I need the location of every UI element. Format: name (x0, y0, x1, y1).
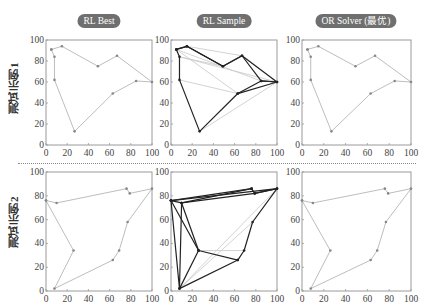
x-tick-label: 100 (404, 294, 419, 304)
city-node (50, 48, 53, 51)
x-tick-label: 40 (209, 294, 219, 304)
y-tick-label: 100 (286, 167, 301, 177)
city-node (329, 249, 332, 252)
y-tick-label: 40 (160, 98, 170, 108)
route-line (307, 46, 411, 131)
x-tick-label: 60 (105, 294, 115, 304)
city-node (309, 56, 312, 59)
x-tick-label: 40 (209, 148, 219, 158)
city-node (312, 202, 315, 205)
city-node (236, 259, 239, 262)
city-node (330, 130, 333, 133)
city-node (354, 65, 357, 68)
x-tick-label: 20 (187, 148, 197, 158)
y-tick-label: 80 (160, 56, 170, 66)
y-tick-label: 100 (155, 35, 170, 45)
city-node (309, 79, 312, 82)
city-node (376, 249, 379, 252)
y-tick-label: 60 (160, 77, 170, 87)
x-tick-label: 80 (126, 294, 136, 304)
x-tick-label: 20 (319, 148, 329, 158)
x-tick-label: 60 (363, 294, 373, 304)
city-node (317, 45, 320, 48)
city-node (151, 187, 154, 190)
y-tick-label: 40 (35, 238, 45, 248)
city-node (385, 221, 388, 224)
x-tick-label: 20 (187, 294, 197, 304)
city-node (251, 221, 254, 224)
city-node (116, 54, 119, 57)
city-node (118, 249, 121, 252)
city-node (369, 259, 372, 262)
x-tick-label: 100 (404, 148, 419, 158)
city-node (151, 81, 154, 84)
city-node (111, 92, 114, 95)
y-tick-label: 100 (30, 167, 45, 177)
y-tick-label: 100 (30, 35, 45, 45)
x-tick-label: 80 (384, 148, 394, 158)
city-node (260, 80, 263, 83)
subplot-rl-best-1: 020406080100020406080100 (30, 35, 160, 158)
x-tick-label: 100 (270, 294, 285, 304)
y-tick-label: 100 (286, 35, 301, 45)
city-node (97, 65, 100, 68)
city-node (180, 202, 183, 205)
city-node (126, 221, 129, 224)
city-node (53, 56, 56, 59)
city-node (186, 45, 189, 48)
city-node (53, 79, 56, 82)
y-tick-label: 20 (291, 119, 301, 129)
city-node (197, 249, 200, 252)
route-line (51, 46, 152, 131)
city-node (384, 187, 387, 190)
sample-route-dark (171, 189, 277, 289)
x-tick-label: 0 (300, 294, 305, 304)
y-tick-label: 40 (35, 98, 45, 108)
city-node (170, 199, 173, 202)
city-node (243, 249, 246, 252)
x-tick-label: 40 (84, 294, 94, 304)
x-tick-label: 0 (169, 148, 174, 158)
x-tick-label: 60 (230, 148, 240, 158)
city-node (178, 287, 181, 290)
plot-grid: 0204060801000204060801000204060801000204… (0, 0, 428, 306)
city-node (175, 48, 178, 51)
subplot-rl-sample-2: 020406080100020406080100 (155, 167, 285, 304)
city-node (410, 187, 413, 190)
city-node (125, 187, 128, 190)
y-tick-label: 40 (160, 238, 170, 248)
subplot-rl-best-2: 020406080100020406080100 (30, 167, 160, 304)
x-tick-label: 100 (145, 294, 160, 304)
x-tick-label: 20 (319, 294, 329, 304)
y-tick-label: 80 (291, 56, 301, 66)
y-tick-label: 60 (291, 77, 301, 87)
x-tick-label: 40 (84, 148, 94, 158)
city-node (72, 249, 75, 252)
city-node (135, 80, 138, 83)
city-node (253, 192, 256, 195)
city-node (410, 81, 413, 84)
y-tick-label: 60 (160, 215, 170, 225)
x-tick-label: 80 (251, 294, 261, 304)
y-tick-label: 20 (291, 262, 301, 272)
city-node (276, 187, 279, 190)
subplot-or-solver-2: 020406080100020406080100 (286, 167, 419, 304)
plot-frame (46, 40, 152, 145)
city-node (55, 202, 58, 205)
city-node (276, 81, 279, 84)
y-tick-label: 20 (160, 119, 170, 129)
y-tick-label: 20 (35, 119, 45, 129)
y-tick-label: 20 (160, 262, 170, 272)
x-tick-label: 100 (270, 148, 285, 158)
y-tick-label: 40 (291, 98, 301, 108)
x-tick-label: 80 (126, 148, 136, 158)
plot-frame (302, 40, 411, 145)
sample-route-light (179, 80, 237, 94)
city-node (241, 54, 244, 57)
x-tick-label: 60 (363, 148, 373, 158)
subplot-rl-sample-1: 020406080100020406080100 (155, 35, 285, 158)
y-tick-label: 80 (160, 191, 170, 201)
y-tick-label: 80 (35, 191, 45, 201)
sample-route-dark (182, 203, 199, 251)
city-node (128, 192, 131, 195)
